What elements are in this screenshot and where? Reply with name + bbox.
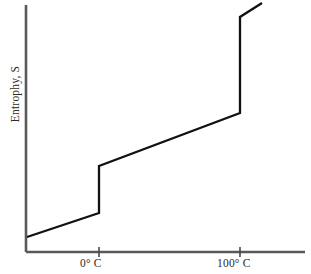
entropy-temperature-figure: ropy (S) Entrophy, S 0° C 100° C: [0, 0, 311, 274]
x-tick-label-100c: 100° C: [217, 257, 251, 269]
entropy-curve: [27, 3, 262, 237]
x-tick-label-0c: 0° C: [80, 257, 102, 269]
plot-area: [0, 0, 311, 274]
y-axis-label: Entrophy, S: [9, 54, 21, 134]
